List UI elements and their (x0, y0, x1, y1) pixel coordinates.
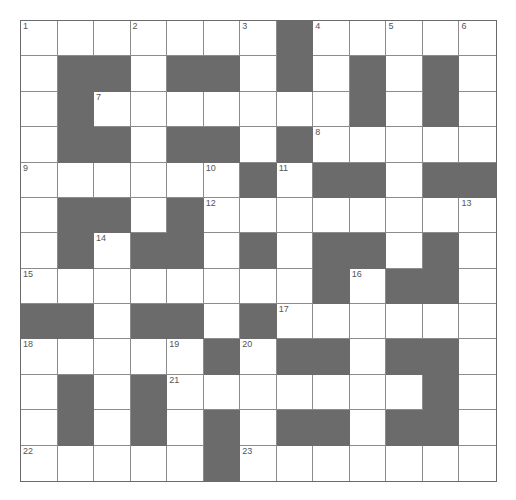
answer-cell[interactable] (21, 410, 58, 445)
answer-cell[interactable]: 10 (204, 163, 241, 198)
answer-cell[interactable]: 22 (21, 446, 58, 481)
answer-cell[interactable] (386, 375, 423, 410)
answer-cell[interactable] (94, 410, 131, 445)
answer-cell[interactable] (423, 304, 460, 339)
answer-cell[interactable]: 9 (21, 163, 58, 198)
answer-cell[interactable] (240, 375, 277, 410)
answer-cell[interactable] (459, 269, 496, 304)
answer-cell[interactable] (94, 339, 131, 374)
answer-cell[interactable] (240, 269, 277, 304)
answer-cell[interactable] (386, 233, 423, 268)
answer-cell[interactable] (350, 339, 387, 374)
answer-cell[interactable] (459, 56, 496, 91)
answer-cell[interactable] (459, 92, 496, 127)
answer-cell[interactable] (131, 92, 168, 127)
answer-cell[interactable]: 12 (204, 198, 241, 233)
answer-cell[interactable] (204, 304, 241, 339)
answer-cell[interactable] (21, 233, 58, 268)
answer-cell[interactable]: 15 (21, 269, 58, 304)
answer-cell[interactable] (350, 304, 387, 339)
answer-cell[interactable] (386, 198, 423, 233)
answer-cell[interactable] (131, 56, 168, 91)
answer-cell[interactable] (167, 410, 204, 445)
answer-cell[interactable] (240, 410, 277, 445)
answer-cell[interactable]: 2 (131, 21, 168, 56)
answer-cell[interactable] (21, 56, 58, 91)
answer-cell[interactable] (21, 127, 58, 162)
answer-cell[interactable] (459, 446, 496, 481)
answer-cell[interactable] (94, 269, 131, 304)
answer-cell[interactable] (277, 269, 314, 304)
answer-cell[interactable] (94, 375, 131, 410)
answer-cell[interactable] (459, 127, 496, 162)
answer-cell[interactable] (240, 92, 277, 127)
answer-cell[interactable]: 7 (94, 92, 131, 127)
answer-cell[interactable] (240, 127, 277, 162)
answer-cell[interactable] (313, 304, 350, 339)
answer-cell[interactable] (459, 304, 496, 339)
answer-cell[interactable]: 21 (167, 375, 204, 410)
answer-cell[interactable] (277, 446, 314, 481)
answer-cell[interactable]: 19 (167, 339, 204, 374)
answer-cell[interactable] (277, 233, 314, 268)
answer-cell[interactable]: 1 (21, 21, 58, 56)
answer-cell[interactable] (313, 56, 350, 91)
answer-cell[interactable] (386, 56, 423, 91)
answer-cell[interactable] (204, 375, 241, 410)
answer-cell[interactable] (58, 21, 95, 56)
answer-cell[interactable] (94, 304, 131, 339)
answer-cell[interactable] (313, 92, 350, 127)
answer-cell[interactable] (459, 410, 496, 445)
answer-cell[interactable] (58, 339, 95, 374)
answer-cell[interactable]: 4 (313, 21, 350, 56)
answer-cell[interactable] (167, 92, 204, 127)
answer-cell[interactable] (204, 233, 241, 268)
answer-cell[interactable] (131, 269, 168, 304)
answer-cell[interactable] (131, 446, 168, 481)
answer-cell[interactable] (277, 198, 314, 233)
answer-cell[interactable] (21, 375, 58, 410)
answer-cell[interactable]: 6 (459, 21, 496, 56)
answer-cell[interactable] (423, 198, 460, 233)
answer-cell[interactable] (94, 21, 131, 56)
answer-cell[interactable] (277, 375, 314, 410)
answer-cell[interactable] (350, 21, 387, 56)
answer-cell[interactable] (167, 269, 204, 304)
answer-cell[interactable] (277, 92, 314, 127)
answer-cell[interactable] (131, 198, 168, 233)
answer-cell[interactable] (386, 163, 423, 198)
answer-cell[interactable]: 23 (240, 446, 277, 481)
answer-cell[interactable] (386, 304, 423, 339)
answer-cell[interactable] (313, 198, 350, 233)
answer-cell[interactable] (240, 56, 277, 91)
answer-cell[interactable] (94, 446, 131, 481)
answer-cell[interactable] (58, 163, 95, 198)
answer-cell[interactable] (21, 198, 58, 233)
answer-cell[interactable] (58, 446, 95, 481)
answer-cell[interactable] (131, 127, 168, 162)
answer-cell[interactable]: 20 (240, 339, 277, 374)
answer-cell[interactable] (167, 163, 204, 198)
answer-cell[interactable] (313, 375, 350, 410)
answer-cell[interactable] (386, 446, 423, 481)
answer-cell[interactable]: 3 (240, 21, 277, 56)
answer-cell[interactable]: 8 (313, 127, 350, 162)
answer-cell[interactable] (167, 446, 204, 481)
answer-cell[interactable] (204, 92, 241, 127)
answer-cell[interactable] (204, 21, 241, 56)
answer-cell[interactable] (459, 375, 496, 410)
answer-cell[interactable]: 17 (277, 304, 314, 339)
answer-cell[interactable] (94, 163, 131, 198)
answer-cell[interactable]: 13 (459, 198, 496, 233)
answer-cell[interactable] (423, 446, 460, 481)
answer-cell[interactable] (459, 233, 496, 268)
answer-cell[interactable] (131, 163, 168, 198)
answer-cell[interactable] (240, 198, 277, 233)
answer-cell[interactable] (350, 410, 387, 445)
answer-cell[interactable] (386, 127, 423, 162)
answer-cell[interactable]: 11 (277, 163, 314, 198)
answer-cell[interactable] (21, 92, 58, 127)
answer-cell[interactable] (423, 21, 460, 56)
answer-cell[interactable] (167, 21, 204, 56)
answer-cell[interactable] (423, 127, 460, 162)
